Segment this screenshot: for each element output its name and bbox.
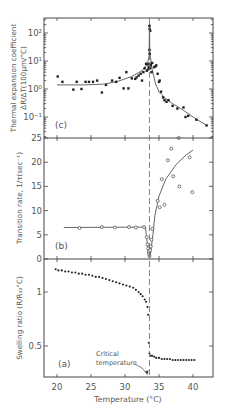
data-point <box>108 279 110 281</box>
data-point <box>191 191 194 194</box>
data-point <box>68 270 70 272</box>
data-point <box>139 73 141 75</box>
data-point <box>146 243 149 246</box>
data-point <box>61 81 63 83</box>
data-point <box>150 71 152 73</box>
y-tick-label: 10 <box>31 206 42 216</box>
data-point <box>180 359 182 361</box>
data-point <box>74 272 76 274</box>
data-point <box>129 286 131 288</box>
data-point <box>111 79 113 81</box>
data-point <box>61 269 63 271</box>
data-point <box>144 299 146 301</box>
y-tick-label: 10² <box>28 28 42 38</box>
data-point <box>160 178 163 181</box>
data-point <box>148 25 150 27</box>
data-point <box>119 282 121 284</box>
data-point <box>131 77 133 79</box>
data-point <box>91 275 93 277</box>
data-point <box>140 293 142 295</box>
x-tick-label: 40 <box>188 382 199 392</box>
data-point <box>105 278 107 280</box>
panel-c-ylabel-line2: ΔR/ΔT(100μm/°C) <box>19 46 28 110</box>
y-tick-label: 25 <box>31 133 42 143</box>
panel-a-label: (a) <box>58 359 71 369</box>
data-point <box>172 175 175 178</box>
frame <box>44 18 213 377</box>
data-point <box>98 276 100 278</box>
data-point <box>150 64 152 66</box>
data-point <box>165 101 167 103</box>
fit-curve <box>57 25 207 126</box>
data-point <box>193 359 195 361</box>
critical-temperature-label-line1: Critical <box>96 350 119 358</box>
data-point <box>132 287 134 289</box>
y-tick-label: 10⁰ <box>28 84 43 94</box>
data-point <box>142 71 144 73</box>
data-point <box>162 96 164 98</box>
data-point <box>128 226 131 229</box>
data-point <box>174 359 176 361</box>
y-tick-label: 20 <box>31 157 42 167</box>
data-point <box>191 359 193 361</box>
data-point <box>188 359 190 361</box>
data-point <box>151 62 153 64</box>
data-point <box>96 79 98 81</box>
x-tick-label: 30 <box>120 382 131 392</box>
data-point <box>171 105 173 107</box>
data-point <box>115 281 117 283</box>
data-point <box>158 79 160 81</box>
x-tick-label: 25 <box>86 382 97 392</box>
data-point <box>182 106 184 108</box>
y-tick-label: 10¹ <box>28 56 42 66</box>
data-point <box>153 356 155 358</box>
panel-b-ylabel: Transition rate, 1/τ(sec⁻¹) <box>15 152 24 245</box>
data-point <box>81 273 83 275</box>
data-point <box>125 71 127 73</box>
data-point <box>113 226 116 229</box>
data-point <box>142 295 144 297</box>
data-point <box>105 84 107 86</box>
data-point <box>115 81 117 83</box>
data-point <box>149 249 152 252</box>
data-point <box>166 159 169 162</box>
data-point <box>163 358 165 360</box>
data-point <box>205 124 207 126</box>
data-point <box>118 77 120 79</box>
data-point <box>141 79 143 81</box>
data-point <box>135 289 137 291</box>
panel-a-ylabel: Swelling ratio (R/R₃₂°C) <box>15 276 24 360</box>
data-point <box>144 67 146 69</box>
data-point <box>72 88 74 90</box>
data-point <box>156 199 159 202</box>
data-point <box>122 283 124 285</box>
data-point <box>57 269 59 271</box>
data-point <box>145 236 148 239</box>
panel-b-label: (b) <box>55 241 68 251</box>
data-point <box>188 156 191 159</box>
data-point <box>112 280 114 282</box>
data-point <box>138 291 140 293</box>
data-point <box>125 284 127 286</box>
data-point <box>158 357 160 359</box>
data-point <box>64 270 66 272</box>
data-point <box>134 226 137 229</box>
plot-frame <box>44 18 213 377</box>
data-point <box>101 91 103 93</box>
data-point <box>85 274 87 276</box>
critical-temperature-label-line2: temperature <box>96 359 137 367</box>
data-point <box>158 206 161 209</box>
data-point <box>71 272 73 274</box>
data-point <box>147 68 149 70</box>
data-point <box>76 81 78 83</box>
fit-curve <box>64 150 193 257</box>
panel-c-ylabel-line1: Thermal expansion coefficient <box>9 24 18 134</box>
data-point <box>172 359 174 361</box>
data-point <box>178 185 181 188</box>
data-point <box>155 64 157 66</box>
data-point <box>137 74 139 76</box>
data-point <box>187 115 189 117</box>
data-point <box>92 81 94 83</box>
data-point <box>195 119 197 121</box>
data-point <box>166 358 168 360</box>
